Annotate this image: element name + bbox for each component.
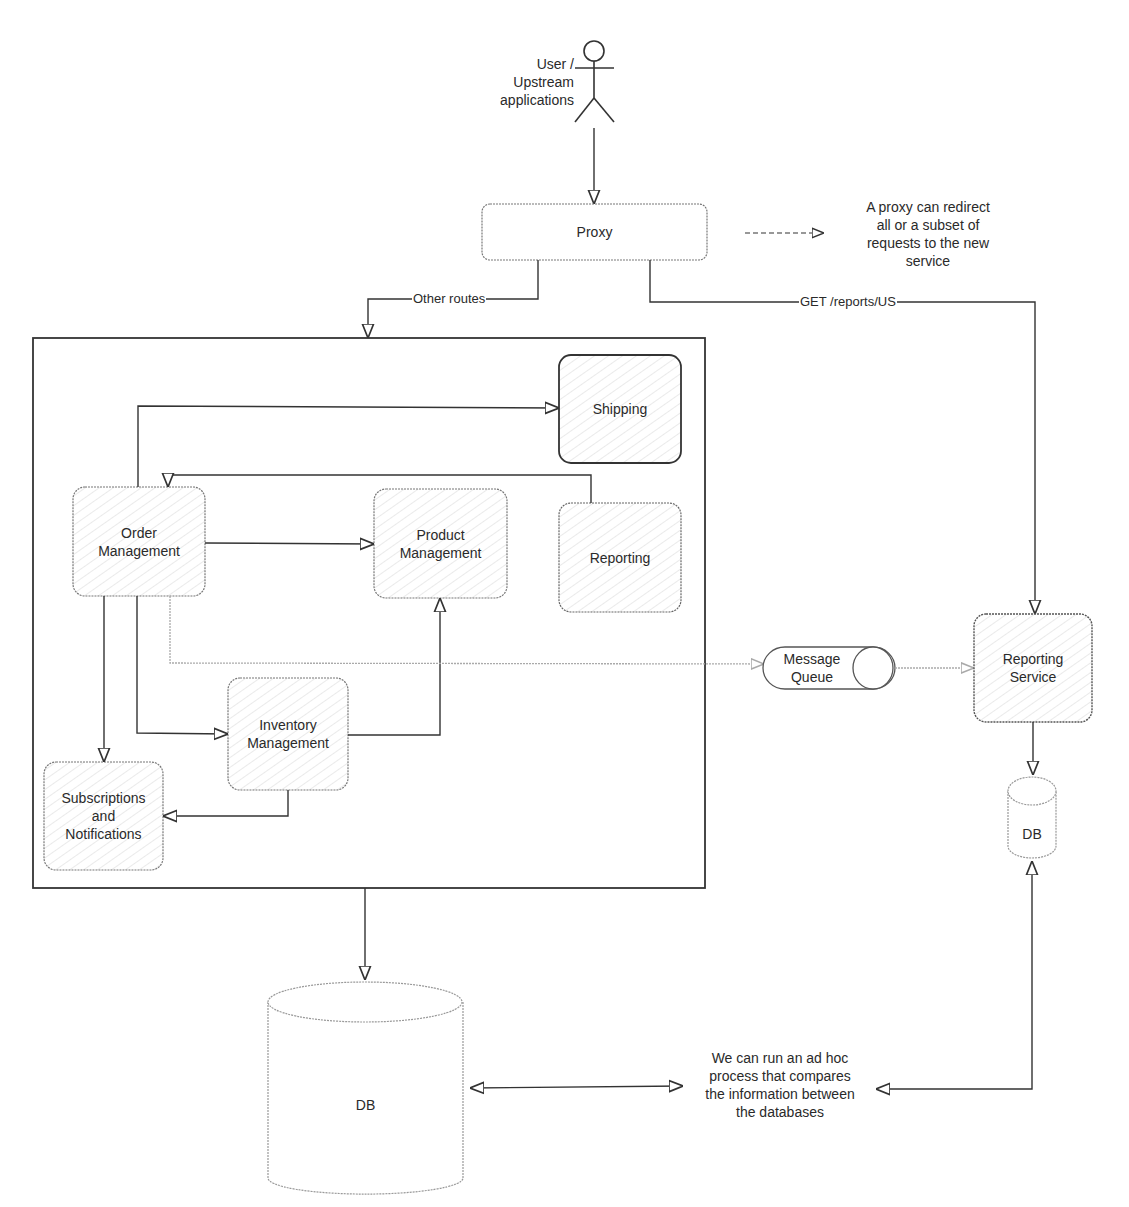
service-shipping[interactable]: Shipping <box>559 355 681 463</box>
reporting-service[interactable]: Reporting Service <box>974 614 1092 722</box>
edge-order-inventory <box>137 596 228 734</box>
edge-inventory-subscriptions <box>163 790 288 816</box>
edge-label-get-reports: GET /reports/US <box>799 295 897 309</box>
actor-label: User / Upstream applications <box>470 62 574 102</box>
stick-figure-icon <box>575 41 614 122</box>
service-order-management[interactable]: Order Management <box>73 487 205 596</box>
service-subscriptions-notifications[interactable]: Subscriptions and Notifications <box>44 762 163 870</box>
main-db[interactable]: DB <box>268 1080 463 1130</box>
proxy-node[interactable]: Proxy <box>482 204 707 260</box>
proxy-note: A proxy can redirect all or a subset of … <box>840 198 1016 270</box>
service-reporting[interactable]: Reporting <box>559 503 681 612</box>
message-queue[interactable]: Message Queue <box>770 647 854 689</box>
edge-inventory-product <box>348 598 440 735</box>
edge-get-reports <box>650 260 1035 614</box>
reporting-db[interactable]: DB <box>1008 818 1056 850</box>
service-product-management[interactable]: Product Management <box>374 489 507 598</box>
edge-label-other-routes: Other routes <box>412 292 486 306</box>
edge-reporting-db-compare <box>876 861 1032 1089</box>
compare-note: We can run an ad hoc process that compar… <box>686 1049 874 1121</box>
edge-order-product <box>205 543 374 544</box>
edge-db-compare <box>470 1086 683 1088</box>
service-inventory-management[interactable]: Inventory Management <box>228 678 348 790</box>
